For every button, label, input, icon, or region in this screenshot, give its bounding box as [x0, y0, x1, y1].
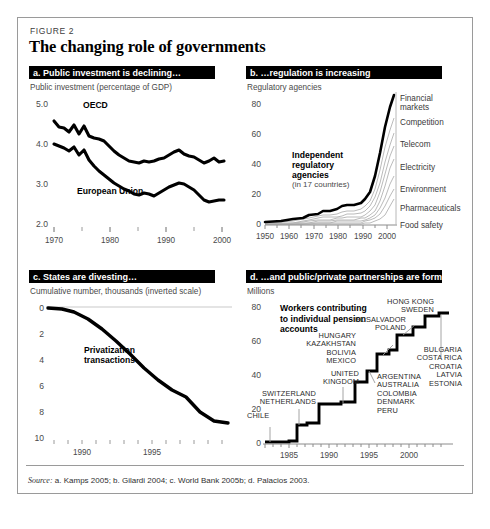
panel-d-country-united-kingdom: UNITED KINGDOM: [311, 370, 359, 387]
panel-pensions: d. …and public/private partnerships are …: [246, 270, 464, 460]
panel-b-category-financial-markets-text: Financial markets: [400, 94, 450, 113]
figure-frame: FIGURE 2 The changing role of government…: [17, 17, 473, 494]
panel-d-ytick-40: 40: [245, 370, 261, 380]
figure-title: The changing role of governments: [29, 37, 266, 57]
panel-a-xtick-1970: 1970: [37, 236, 71, 245]
panel-c-header: c. States are divesting…: [29, 270, 215, 283]
panel-c-header-label: c. States are divesting…: [33, 272, 137, 282]
panel-b-header-label: b. …regulation is increasing: [250, 68, 371, 78]
panel-c-ytick-2: 2: [28, 329, 44, 339]
panel-d-xtick-1995: 1995: [352, 451, 386, 460]
panel-d-country-poland: POLAND: [350, 324, 406, 332]
panel-c-xtick-1990: 1990: [65, 448, 99, 457]
figure-number: FIGURE 2: [30, 26, 74, 36]
panel-b-ytick-60: 60: [245, 129, 261, 139]
panel-d-country-chile: CHILE: [247, 412, 269, 420]
panel-b-ytick-20: 20: [245, 189, 261, 199]
panel-b-category-environment: Environment: [400, 185, 446, 194]
panel-a-label-eu: European Union: [77, 186, 143, 196]
panel-a-xtick-2000: 2000: [205, 236, 239, 245]
panel-d-xtick-1985: 1985: [272, 451, 306, 460]
panel-a-ytick-3: 2.0: [28, 219, 48, 229]
panel-c-series-label-line2: transactions: [84, 355, 135, 365]
panel-c-ytick-10: 10: [25, 433, 44, 443]
panel-d-country-netherlands: NETHERLANDS: [256, 398, 316, 406]
panel-d-country-kingdom: KINGDOM: [311, 378, 359, 386]
panel-b-category-pharmaceuticals: Pharmaceuticals: [400, 204, 461, 213]
panel-a-xaxis: [53, 227, 233, 235]
source-divider: [26, 465, 464, 466]
panel-c-ytick-0: 0: [28, 303, 44, 313]
panel-d-xtick-2000: 2000: [392, 451, 426, 460]
panel-d-country-mexico: MEXICO: [304, 357, 356, 365]
panel-b-axis-title: Regulatory agencies: [247, 83, 322, 92]
panel-d-country-estonia: ESTONIA: [404, 380, 462, 388]
panel-a-label-eu-text: European Union: [77, 186, 143, 196]
panel-d-header: d. …and public/private partnerships are …: [246, 270, 442, 283]
panel-b-annotation-line1: Independent: [292, 150, 349, 160]
panel-b-category-competition: Competition: [400, 118, 444, 127]
panel-b-annotation-sub: (in 17 countries): [292, 180, 349, 190]
panel-c-ytick-4: 4: [28, 355, 44, 365]
panel-public-investment: a. Public investment is declining… Publi…: [29, 66, 236, 251]
panel-c-xtick-1995: 1995: [135, 448, 169, 457]
panel-a-plot: [53, 96, 233, 236]
panel-d-header-label: d. …and public/private partnerships are …: [250, 272, 456, 282]
panel-b-annotation: Independent regulatory agencies (in 17 c…: [292, 150, 349, 190]
panel-a-ytick-2: 3.0: [28, 179, 48, 189]
panel-d-annotation-line1: Workers contributing: [280, 303, 367, 314]
panel-d-ytick-0: 0: [245, 438, 261, 448]
panel-b-category-food-safety: Food safety: [400, 221, 443, 230]
panel-a-label-oecd: OECD: [83, 100, 108, 110]
panel-a-xtick-1990: 1990: [149, 236, 183, 245]
panel-b-category-electricity: Electricity: [400, 163, 435, 172]
panel-b-ytick-40: 40: [245, 159, 261, 169]
panel-c-series-label: Privatization transactions: [84, 345, 135, 365]
panel-c-ytick-6: 6: [28, 381, 44, 391]
panel-d-country-hungary-group: HUNGARY KAZAKHSTAN BOLIVIA MEXICO: [304, 332, 356, 366]
panel-d-axis-title: Millions: [247, 287, 274, 296]
panel-b-annotation-line3: agencies: [292, 170, 349, 180]
panel-d-xtick-1990: 1990: [312, 451, 346, 460]
panel-d-country-hong-kong-sweden: HONG KONG SWEDEN: [382, 298, 434, 315]
panel-b-xtick-2000: 2000: [370, 232, 404, 241]
panel-c-ytick-8: 8: [28, 407, 44, 417]
panel-b-ytick-0: 0: [245, 219, 261, 229]
panel-d-country-el-salvador-poland: EL SALVADOR POLAND: [350, 316, 406, 333]
panel-c-axis-title: Cumulative number, thousands (inverted s…: [30, 287, 201, 296]
panel-d-country-chile-line1: CHILE: [247, 412, 269, 420]
panel-d-country-peru: PERU: [377, 407, 421, 415]
panel-c-series-label-line1: Privatization: [84, 345, 135, 355]
panel-privatization: c. States are divesting… Cumulative numb…: [29, 270, 236, 460]
panel-regulation: b. …regulation is increasing Regulatory …: [246, 66, 464, 251]
panel-a-axis-title: Public investment (percentage of GDP): [30, 83, 172, 92]
panel-d-country-switzerland-netherlands: SWITZERLAND NETHERLANDS: [256, 390, 316, 407]
source-note: Source: a. Kamps 2005; b. Gilardi 2004; …: [28, 476, 310, 485]
panel-b-header: b. …regulation is increasing: [246, 66, 442, 79]
source-label: Source:: [28, 476, 53, 485]
source-text: a. Kamps 2005; b. Gilardi 2004; c. World…: [53, 476, 310, 485]
panel-d-country-bulgaria-group: BULGARIA COSTA RICA CROATIA LATVIA ESTON…: [404, 346, 462, 388]
panel-a-header-label: a. Public investment is declining…: [33, 68, 181, 78]
panel-b-category-telecom: Telecom: [400, 140, 431, 149]
panel-b-annotation-line2: regulatory: [292, 160, 349, 170]
panel-b-category-financial-markets: Financial markets: [400, 94, 450, 113]
panel-a-header: a. Public investment is declining…: [29, 66, 215, 79]
panel-c-plot: [46, 300, 232, 445]
panel-d-ytick-60: 60: [245, 336, 261, 346]
panel-a-ytick-0: 5.0: [28, 99, 48, 109]
panel-d-ytick-80: 80: [245, 302, 261, 312]
panel-d-country-sweden: SWEDEN: [382, 306, 434, 314]
panel-a-xtick-1980: 1980: [93, 236, 127, 245]
panel-b-ytick-80: 80: [245, 99, 261, 109]
panel-a-ytick-1: 4.0: [28, 139, 48, 149]
